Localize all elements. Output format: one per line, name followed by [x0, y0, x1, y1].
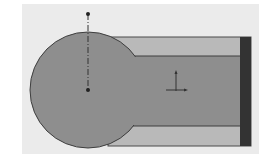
cad-sketch-canvas [0, 0, 275, 164]
top-point-icon[interactable] [86, 12, 90, 16]
end-bar[interactable] [240, 37, 251, 146]
circle-center-point-icon[interactable] [86, 88, 90, 92]
joint-fill [118, 57, 148, 125]
